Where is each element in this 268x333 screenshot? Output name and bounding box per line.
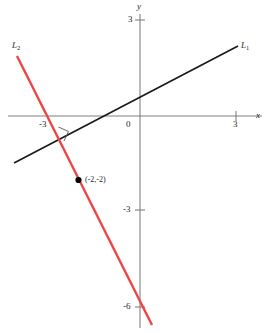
x-tick-label-3: 3 (233, 120, 238, 129)
line-label-L1-sub: 1 (246, 44, 249, 51)
graph-figure: x y -3 0 3 3 -3 -6 L2 L1 (-2,-2) (0, 0, 268, 333)
point-coordinate-label: (-2,-2) (85, 176, 106, 184)
line-label-L1: L1 (241, 41, 249, 50)
line-label-L2-sub: 2 (17, 44, 20, 51)
y-tick-label-minus-6: -6 (123, 302, 131, 311)
line-L1 (14, 46, 238, 163)
line-L2 (17, 56, 152, 325)
x-tick-label-0: 0 (126, 120, 131, 129)
x-tick-label-minus-3: -3 (39, 120, 47, 129)
x-axis-label: x (256, 111, 260, 120)
y-axis-label: y (137, 2, 141, 11)
plot-canvas (0, 0, 268, 333)
y-tick-label-minus-3: -3 (123, 205, 131, 214)
plotted-point-dot (75, 177, 81, 183)
y-tick-label-3: 3 (128, 15, 133, 24)
line-label-L2: L2 (12, 41, 20, 50)
